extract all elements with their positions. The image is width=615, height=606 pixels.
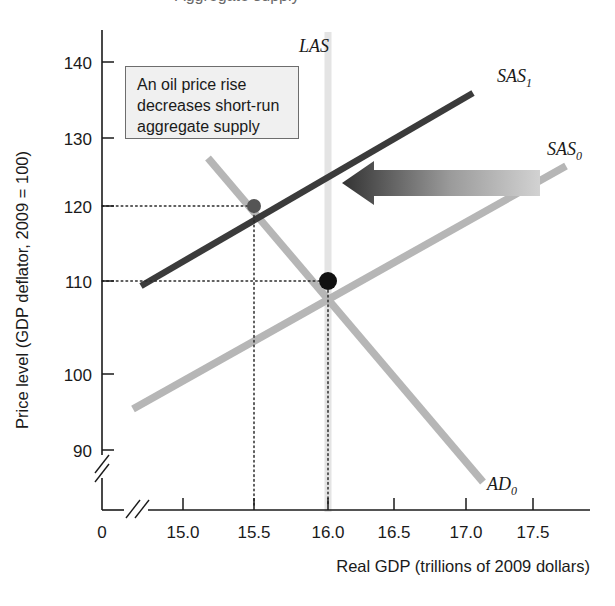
y-tick-label: 130	[64, 130, 92, 149]
annotation-line-2: decreases short-run	[137, 95, 288, 116]
y-axis-title: Price level (GDP deflator, 2009 = 100)	[13, 151, 31, 429]
curve-label-sas1-text: SAS1	[497, 66, 532, 90]
x-tick-label: 17.0	[449, 523, 482, 542]
y-axis	[95, 30, 114, 510]
x-tick-label: 16.0	[311, 523, 344, 542]
y-tick-label: 90	[73, 442, 92, 461]
x-tick-label: 16.5	[377, 523, 410, 542]
point-initial-equilibrium	[319, 272, 337, 290]
annotation-line-3: aggregate supply	[137, 116, 288, 137]
curve-sas0	[133, 166, 566, 409]
aggregate-supply-chart: Aggregate supply	[0, 0, 615, 606]
annotation-box: An oil price rise decreases short-run ag…	[125, 66, 299, 139]
point-new-equilibrium	[247, 199, 261, 213]
y-tick-label: 100	[64, 366, 92, 385]
x-axis	[102, 498, 590, 518]
curve-label-sas1: SAS1	[497, 66, 532, 90]
curve-label-sas0-text: SAS0	[547, 139, 582, 163]
y-tick-label: 110	[65, 273, 92, 292]
x-tick-label: 0	[97, 523, 106, 542]
y-tick-label: 140	[64, 54, 92, 73]
x-tick-label: 17.5	[516, 523, 549, 542]
x-tick-label: 15.0	[166, 523, 199, 542]
annotation-line-1: An oil price rise	[137, 74, 288, 95]
curve-label-sas0: SAS0	[547, 139, 582, 163]
curve-label-ad0-text: AD0	[486, 474, 517, 498]
x-axis-title: Real GDP (trillions of 2009 dollars)	[336, 557, 590, 575]
x-tick-label: 15.5	[237, 523, 270, 542]
curve-label-las: LAS	[298, 36, 329, 56]
chart-canvas: 140 130 120 110 100 90 0 15.0 15.5 16.0 …	[0, 0, 615, 606]
y-tick-label: 120	[64, 198, 92, 217]
curve-label-las-text: LAS	[298, 36, 329, 56]
curve-label-ad0: AD0	[486, 474, 517, 498]
guide-lines	[102, 206, 328, 505]
